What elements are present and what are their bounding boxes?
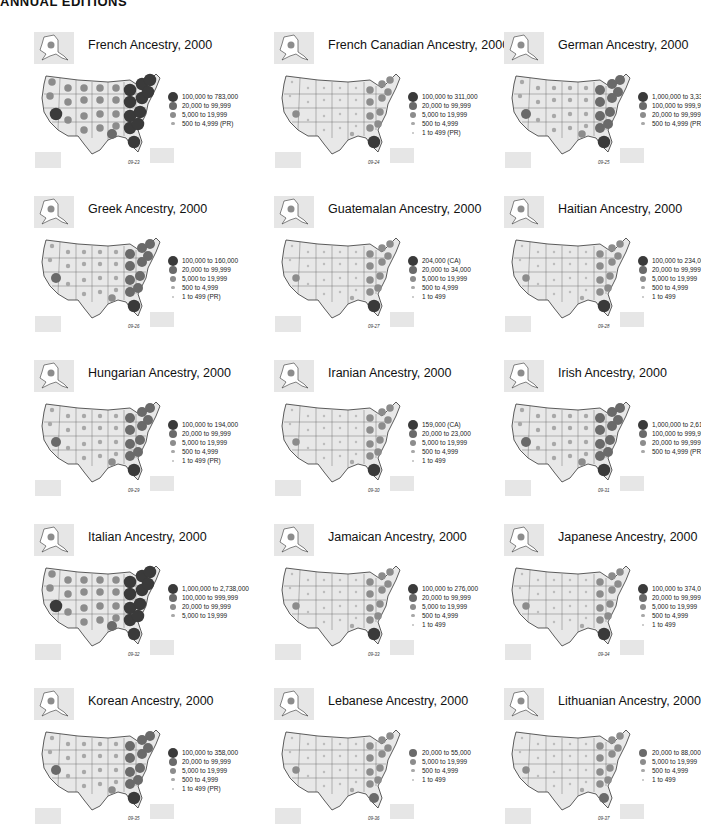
legend-circle-icon (408, 256, 418, 266)
state-bubble (339, 455, 342, 458)
state-bubble (608, 258, 616, 266)
state-bubble (584, 440, 588, 444)
state-bubble (323, 771, 326, 774)
map-legend: 20,000 to 88,0005,000 to 19,999500 to 4,… (636, 748, 701, 784)
state-bubble (350, 788, 354, 792)
legend-circle-icon (169, 594, 177, 602)
legend-swatch-wrap (166, 788, 180, 790)
state-bubble (585, 289, 588, 292)
state-bubble (355, 453, 358, 456)
legend-label: 20,000 to 99,999 (422, 594, 471, 601)
legend-item: 500 to 4,999 (406, 119, 478, 128)
alaska-inset (34, 360, 74, 392)
state-bubble (355, 755, 358, 758)
state-bubble (339, 277, 342, 280)
legend-swatch-wrap (406, 112, 420, 118)
legend-circle-icon (171, 450, 175, 454)
state-bubble (323, 279, 326, 282)
legend-item: 100,000 to 234,000 (636, 256, 701, 265)
legend-item: 1 to 499 (406, 775, 471, 784)
legend-label: 20,000 to 23,000 (422, 430, 471, 437)
state-bubble (376, 108, 384, 116)
state-bubble (135, 763, 145, 773)
state-bubble (66, 446, 70, 450)
state-bubble (51, 437, 61, 447)
puerto-rico-inset (620, 312, 644, 327)
legend-label: 20,000 to 99,999 (652, 594, 701, 601)
legend-item: 500 to 4,999 (166, 283, 238, 292)
state-bubble (124, 84, 137, 97)
state-bubble (366, 578, 374, 586)
legend-item: 100,000 to 194,000 (166, 420, 238, 429)
state-bubble (366, 780, 374, 788)
state-bubble (378, 80, 386, 88)
legend-swatch-wrap (636, 430, 650, 438)
legend-circle-icon (410, 112, 416, 118)
puerto-rico-inset (390, 476, 414, 491)
legend-swatch-wrap (166, 768, 180, 774)
map-title: Italian Ancestry, 2000 (88, 530, 207, 544)
state-bubble (291, 245, 294, 248)
state-bubble (307, 743, 310, 746)
state-bubble (537, 757, 540, 760)
legend-swatch-wrap (406, 749, 420, 757)
legend-item: 5,000 to 19,999 (166, 438, 238, 447)
state-bubble (82, 442, 86, 446)
state-bubble (596, 276, 604, 284)
state-bubble (355, 579, 358, 582)
legend-circle-icon (169, 266, 177, 274)
legend-item: 500 to 4,999 (636, 611, 701, 620)
state-bubble (323, 755, 326, 758)
state-bubble (569, 755, 572, 758)
map-legend: 100,000 to 358,00020,000 to 99,9995,000 … (166, 748, 238, 793)
state-bubble (339, 263, 342, 266)
state-bubble (605, 435, 615, 445)
figure-number: 09-37 (598, 816, 610, 821)
state-bubble (48, 258, 52, 262)
legend-label: 500 to 4,999 (PR) (652, 120, 701, 127)
legend-item: 5,000 to 19,999 (166, 110, 238, 119)
ancestry-map-panel-09-36: Lebanese Ancestry, 2000 09- (240, 684, 470, 838)
state-bubble (553, 771, 556, 774)
state-bubble (386, 404, 394, 412)
state-bubble (580, 788, 584, 792)
legend-swatch-wrap (166, 430, 180, 438)
state-bubble (569, 251, 572, 254)
state-bubble (323, 427, 326, 430)
legend-item: 20,000 to 99,999 (406, 593, 478, 602)
state-bubble (107, 621, 117, 631)
legend-item: 1 to 499 (406, 620, 478, 629)
state-bubble (355, 125, 358, 128)
legend-label: 5,000 to 19,999 (652, 275, 697, 282)
legend-swatch-wrap (166, 594, 180, 602)
us-map-graphic (38, 398, 163, 488)
state-bubble (66, 774, 70, 778)
state-bubble (355, 591, 358, 594)
us-bubble-map (278, 398, 403, 488)
legend-circle-icon (640, 112, 646, 118)
state-bubble (569, 743, 572, 746)
legend-item: 1 to 499 (636, 620, 701, 629)
state-bubble (80, 588, 88, 596)
state-bubble (355, 415, 358, 418)
state-bubble (569, 277, 572, 280)
legend-swatch-wrap (636, 779, 650, 781)
legend-swatch-wrap (636, 102, 650, 110)
legend-item: 500 to 4,999 (406, 283, 471, 292)
state-bubble (615, 403, 625, 413)
figure-number: 09-27 (368, 324, 380, 329)
state-bubble (521, 109, 531, 119)
state-bubble (366, 414, 374, 422)
state-bubble (108, 294, 116, 302)
state-bubble (96, 576, 104, 584)
state-bubble (339, 441, 342, 444)
state-bubble (608, 736, 616, 744)
state-bubble (133, 775, 143, 785)
hawaii-inset (505, 480, 531, 496)
state-bubble (323, 87, 326, 90)
legend-item: 20,000 to 99,999 (636, 110, 701, 119)
legend-label: 500 to 4,999 (182, 448, 218, 455)
legend-label: 1 to 499 (652, 293, 676, 300)
hawaii-inset (505, 808, 531, 824)
legend-circle-icon (408, 420, 418, 430)
